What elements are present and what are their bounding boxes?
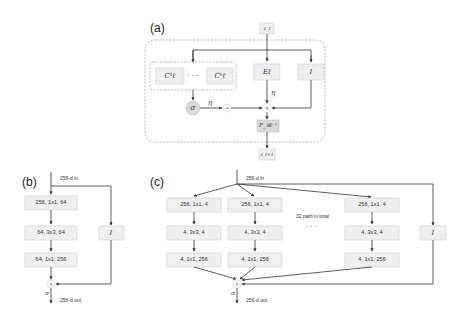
- path-1-box-2-label: 4, 3x3, 4: [183, 229, 204, 235]
- path-2-box-3-label: 4, 1x1, 256: [241, 256, 269, 262]
- plus-label: +: [48, 280, 53, 287]
- panel-a: (a) z_ℓ C¹ℓ · · · Cᵏℓ Eℓ I σ η −: [145, 21, 325, 160]
- input-label: 256-d in: [246, 175, 264, 181]
- input-label: z_ℓ: [262, 25, 271, 32]
- path-1-box-3-label: 4, 1x1, 256: [180, 256, 208, 262]
- ensemble-dots: · · ·: [187, 72, 198, 80]
- sigma-label: σ: [231, 289, 236, 296]
- panel-b: (b) 256-d in 256, 1x1, 64 64, 3x3, 64 64…: [22, 172, 124, 303]
- output-label: 256-d out: [246, 297, 268, 303]
- path-32-box-3-label: 4, 1x1, 256: [358, 256, 386, 262]
- merge-arrow-1: [194, 267, 236, 279]
- output-label: 256-d out: [60, 297, 82, 303]
- minus-label: −: [224, 104, 229, 111]
- conv-box-1-label: 256, 1x1, 64: [36, 199, 67, 205]
- ensemble-last-label: Cᵏℓ: [215, 72, 226, 80]
- identity-label: I: [431, 229, 435, 237]
- conv-box-3-label: 64, 1x1, 256: [36, 256, 67, 262]
- input-label: 256-d in: [60, 175, 78, 181]
- fan-arrow-1: [194, 184, 237, 196]
- panel-c: (c) 256-d in 256, 1x1, 4 4, 3x3, 4 4, 1x…: [150, 170, 446, 303]
- conv-box-2-label: 64, 3x3, 64: [37, 229, 65, 235]
- path-32: 256, 1x1, 4 4, 3x3, 4 4, 1x1, 256: [345, 198, 399, 267]
- identity-label: I: [309, 68, 313, 76]
- figure-canvas: (a) z_ℓ C¹ℓ · · · Cᵏℓ Eℓ I σ η −: [0, 0, 466, 316]
- path-2-box-1-label: 256, 1x1, 4: [241, 201, 269, 207]
- branch-line: [193, 50, 311, 61]
- sigma-label: σ: [191, 104, 196, 112]
- ensemble-first-label: C¹ℓ: [164, 72, 175, 80]
- sigma-label: σ: [45, 289, 50, 296]
- plus-label: +: [264, 104, 269, 111]
- merge-arrow-3: [242, 267, 372, 280]
- eta-down-label: η: [271, 89, 276, 97]
- arrow-identity-to-plus: [272, 80, 311, 108]
- eta-left-label: η: [208, 99, 213, 107]
- path-32-box-1-label: 256, 1x1, 4: [358, 201, 386, 207]
- path-2: 256, 1x1, 4 4, 3x3, 4 4, 1x1, 256: [228, 198, 282, 267]
- identity-label: I: [109, 229, 113, 237]
- paths-dots: · · ·: [306, 223, 317, 230]
- expert-label: Eℓ: [262, 68, 271, 76]
- path-32-box-2-label: 4, 3x3, 4: [361, 229, 382, 235]
- fan-arrow-3: [237, 184, 371, 197]
- paths-note: 32 path in total: [296, 213, 329, 219]
- panel-c-label: (c): [150, 175, 164, 189]
- path-1-box-1-label: 256, 1x1, 4: [180, 201, 208, 207]
- projection-label: P_𝒢ℓ⁻¹: [258, 122, 277, 129]
- path-2-box-2-label: 4, 3x3, 4: [244, 229, 265, 235]
- panel-a-label: (a): [150, 21, 165, 35]
- panel-b-label: (b): [22, 175, 37, 189]
- plus-label: +: [234, 280, 239, 287]
- path-1: 256, 1x1, 4 4, 3x3, 4 4, 1x1, 256: [167, 198, 221, 267]
- merge-arrow-2: [240, 267, 255, 279]
- module-boundary: [145, 40, 325, 142]
